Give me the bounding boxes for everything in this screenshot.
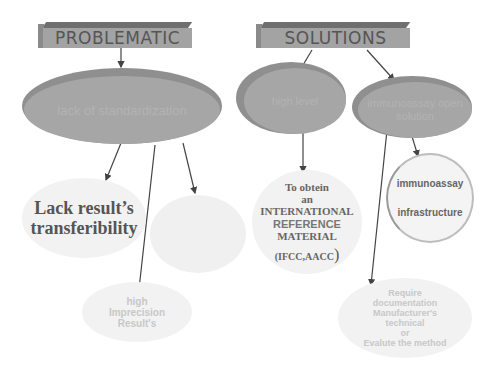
lack-transferability-node: Lack result’s transferibility	[22, 178, 146, 258]
lack-transfer-line2: transferibility	[31, 218, 138, 238]
solutions-header: SOLUTIONS	[256, 22, 406, 48]
doc-line4: technical	[385, 318, 424, 328]
ref-line5: MATERIAL	[277, 230, 337, 243]
ref-line6-wrap: (IFCC,AACC)	[275, 246, 340, 264]
reference-material-node: To obtein an INTERNATIONAL REFERENCE MAT…	[252, 170, 362, 274]
ref-line2: an	[301, 193, 313, 205]
problematic-header: PROBLEMATIC	[38, 22, 188, 48]
ref-line6: (IFCC,AACC	[275, 251, 334, 262]
lack-of-standardization-node: lack of standardization	[22, 68, 222, 144]
ref-line4: REFERENCE	[273, 218, 341, 230]
doc-line1: Require	[388, 288, 422, 298]
illegible-consequence-node	[150, 195, 246, 273]
solution-label-open-solution: immunoassay open solution	[358, 82, 472, 138]
immunoassay-infrastructure-node: immunoassay infrastructure	[386, 153, 474, 243]
solution-label-high-level: high level	[244, 68, 346, 134]
lack-transfer-line1: Lack result’s	[34, 198, 134, 218]
high-imprecision-node: high Imprecision Result's	[82, 282, 192, 342]
doc-line6: Evalute the method	[363, 338, 446, 348]
documentation-node: Require documentation Manufacturer's tec…	[338, 278, 472, 358]
doc-line2: documentation	[373, 298, 438, 308]
lack-of-standardization-label: lack of standardization	[24, 76, 220, 144]
ref-line1: To obtein	[285, 181, 329, 193]
doc-line5: or	[401, 328, 410, 338]
solutions-label: SOLUTIONS	[261, 28, 410, 48]
ref-line3: INTERNATIONAL	[260, 205, 353, 218]
doc-line3: Manufacturer's	[373, 308, 437, 318]
solution-node-open-solution: immunoassay open solution	[352, 76, 472, 138]
problematic-label: PROBLEMATIC	[43, 28, 192, 48]
imprecision-line3: Result's	[118, 318, 157, 329]
imprecision-line2: Imprecision	[109, 307, 165, 318]
imprecision-line1: high	[126, 296, 147, 307]
infra-line2: infrastructure	[397, 207, 462, 218]
solution-node-high-level: high level	[236, 62, 346, 134]
ref-paren: )	[334, 246, 339, 263]
infra-line1: immunoassay	[397, 178, 464, 189]
